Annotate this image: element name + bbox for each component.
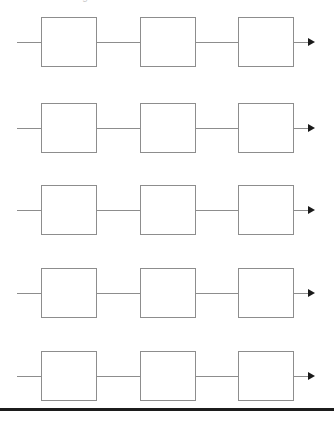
block-chain-row — [0, 99, 334, 159]
block-chain-row — [0, 181, 334, 241]
diagram-canvas: Block diagram — [0, 0, 334, 422]
connector-wire — [195, 42, 239, 43]
arrow-right-icon — [308, 289, 315, 297]
clipped-caption-text: Block diagram — [38, 0, 107, 2]
connector-wire — [195, 293, 239, 294]
input-wire — [17, 210, 42, 211]
process-block[interactable] — [140, 268, 196, 318]
connector-wire — [96, 210, 141, 211]
input-wire — [17, 42, 42, 43]
process-block[interactable] — [41, 17, 97, 67]
arrow-right-icon — [308, 124, 315, 132]
connector-wire — [96, 128, 141, 129]
arrow-right-icon — [308, 372, 315, 380]
process-block[interactable] — [238, 185, 294, 235]
process-block[interactable] — [41, 185, 97, 235]
process-block[interactable] — [140, 351, 196, 401]
block-chain-row — [0, 264, 334, 324]
connector-wire — [96, 42, 141, 43]
block-chain-row — [0, 13, 334, 73]
process-block[interactable] — [140, 103, 196, 153]
process-block[interactable] — [41, 351, 97, 401]
process-block[interactable] — [41, 103, 97, 153]
horizontal-divider — [0, 408, 334, 411]
process-block[interactable] — [41, 268, 97, 318]
connector-wire — [195, 128, 239, 129]
input-wire — [17, 293, 42, 294]
process-block[interactable] — [238, 17, 294, 67]
input-wire — [17, 376, 42, 377]
block-chain-row — [0, 347, 334, 407]
process-block[interactable] — [140, 185, 196, 235]
connector-wire — [96, 376, 141, 377]
process-block[interactable] — [238, 103, 294, 153]
process-block[interactable] — [238, 351, 294, 401]
connector-wire — [96, 293, 141, 294]
connector-wire — [195, 210, 239, 211]
arrow-right-icon — [308, 38, 315, 46]
connector-wire — [195, 376, 239, 377]
input-wire — [17, 128, 42, 129]
process-block[interactable] — [238, 268, 294, 318]
process-block[interactable] — [140, 17, 196, 67]
arrow-right-icon — [308, 206, 315, 214]
